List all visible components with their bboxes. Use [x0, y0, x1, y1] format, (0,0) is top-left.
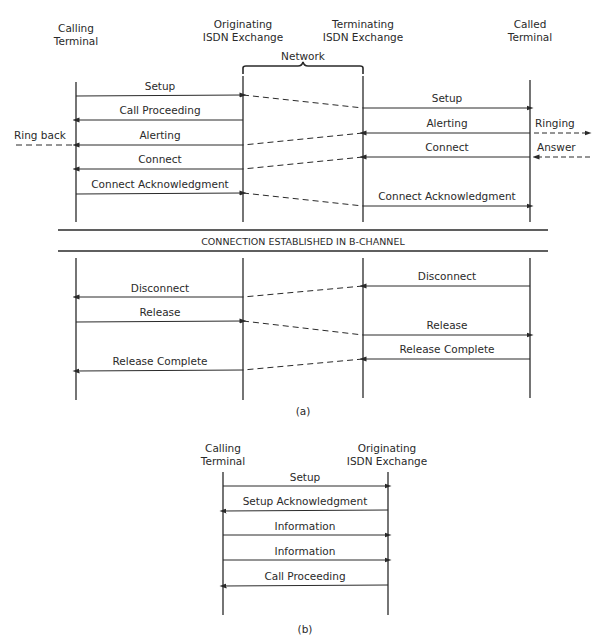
- lane-header-originating-l2: ISDN Exchange: [203, 31, 283, 43]
- ring-back-label: Ring back: [14, 129, 67, 141]
- diagram-b: Calling Terminal Originating ISDN Exchan…: [200, 442, 427, 635]
- arrow-setup-left: [76, 95, 243, 96]
- lane-header-calling-terminal-l2: Terminal: [53, 35, 98, 47]
- caption-b: (b): [298, 623, 313, 635]
- arrow-connect-ack-left: [76, 193, 243, 194]
- msg-connect-right: Connect: [425, 141, 468, 153]
- b-msg-setup-ack: Setup Acknowledgment: [243, 495, 368, 507]
- lane-header-terminating-l1: Terminating: [331, 18, 394, 30]
- lane-header-called-terminal-l2: Terminal: [507, 31, 552, 43]
- network-brace: [243, 62, 363, 74]
- isdn-call-flow-figure: Calling Terminal Originating ISDN Exchan…: [0, 0, 593, 640]
- msg-connect-left: Connect: [138, 153, 181, 165]
- b-lane-header-originating-l2: ISDN Exchange: [347, 455, 427, 467]
- b-arrow-call-proceeding: [223, 585, 388, 586]
- b-arrow-setup-ack: [223, 510, 388, 511]
- msg-disconnect-right: Disconnect: [418, 270, 476, 282]
- msg-call-proceeding: Call Proceeding: [119, 104, 200, 116]
- arrow-release-complete-left: [76, 370, 243, 371]
- caption-a: (a): [296, 405, 311, 417]
- msg-alerting-left: Alerting: [139, 129, 180, 141]
- msg-setup-left: Setup: [145, 80, 176, 92]
- msg-alerting-right: Alerting: [426, 117, 467, 129]
- b-msg-call-proceeding: Call Proceeding: [264, 570, 345, 582]
- msg-release-left: Release: [139, 306, 180, 318]
- b-lane-header-originating-l1: Originating: [358, 442, 417, 454]
- msg-disconnect-left: Disconnect: [131, 282, 189, 294]
- lane-header-terminating-l2: ISDN Exchange: [323, 31, 403, 43]
- msg-connect-ack-left: Connect Acknowledgment: [91, 178, 228, 190]
- msg-connect-ack-right: Connect Acknowledgment: [378, 190, 515, 202]
- b-msg-information-2: Information: [275, 545, 336, 557]
- b-msg-information-1: Information: [275, 520, 336, 532]
- msg-release-right: Release: [426, 319, 467, 331]
- network-links-upper: [243, 95, 363, 206]
- msg-release-complete-right: Release Complete: [400, 343, 495, 355]
- diagram-a: Calling Terminal Originating ISDN Exchan…: [14, 18, 590, 417]
- banner-text: CONNECTION ESTABLISHED IN B-CHANNEL: [201, 236, 405, 247]
- network-label: Network: [281, 50, 326, 62]
- answer-label: Answer: [537, 141, 576, 153]
- lane-header-calling-terminal-l1: Calling: [58, 22, 94, 34]
- ringing-label: Ringing: [535, 117, 575, 129]
- network-links-lower: [243, 286, 363, 370]
- b-lane-header-calling-l1: Calling: [205, 442, 241, 454]
- b-msg-setup: Setup: [290, 471, 321, 483]
- arrow-release-left: [76, 321, 243, 322]
- b-lane-header-calling-l2: Terminal: [200, 455, 245, 467]
- lane-header-called-terminal-l1: Called: [514, 18, 547, 30]
- b-lifelines: [223, 472, 388, 615]
- lane-header-originating-l1: Originating: [214, 18, 273, 30]
- msg-release-complete-left: Release Complete: [113, 355, 208, 367]
- msg-setup-right: Setup: [432, 92, 463, 104]
